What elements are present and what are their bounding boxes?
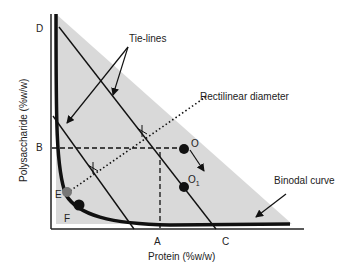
point-e: [62, 187, 72, 197]
point-f: [74, 200, 85, 211]
label-b: B: [36, 142, 43, 153]
label-o1-sub: 1: [196, 180, 200, 187]
label-f: F: [64, 213, 70, 224]
y-axis-label: Polysaccharide (%w/w): [18, 79, 29, 182]
phase-diagram: D B E F A C O O1 Tie-lines Rectilinear d…: [0, 0, 352, 272]
two-phase-region: [56, 14, 292, 224]
label-d: D: [36, 23, 43, 34]
point-o: [179, 144, 189, 154]
annotation-tie-lines: Tie-lines: [129, 33, 166, 44]
annotation-rectilinear-diameter: Rectilinear diameter: [200, 91, 290, 102]
annotation-binodal-curve: Binodal curve: [274, 175, 335, 186]
label-c: C: [222, 236, 229, 247]
label-o: O: [191, 138, 199, 149]
label-e: E: [55, 189, 62, 200]
x-axis-label: Protein (%w/w): [148, 251, 215, 262]
label-a: A: [154, 236, 161, 247]
